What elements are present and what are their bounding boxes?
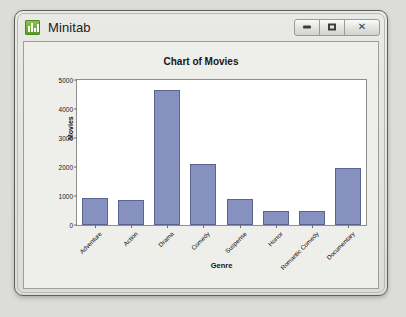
y-axis-tick-label: 0 [69,222,73,229]
x-axis-tick-mark [348,225,349,228]
minitab-window: Minitab ✕ Chart of Movies Movies 0100020… [14,10,388,296]
x-axis-title: Genre [76,261,367,270]
close-icon: ✕ [358,22,366,32]
window-titlebar[interactable]: Minitab ✕ [19,15,383,39]
x-axis-tick-mark [276,225,277,228]
window-controls: ✕ [294,19,380,36]
y-axis-tick-label: 5000 [59,77,73,84]
x-axis-tick-mark [240,225,241,228]
y-axis-tick-mark [74,80,77,81]
y-axis-tick-mark [74,196,77,197]
x-axis-tick-mark [95,225,96,228]
graph-client-area: Chart of Movies Movies 01000200030004000… [23,41,379,289]
y-axis-tick-mark [74,225,77,226]
minimize-button[interactable] [294,19,320,36]
x-axis-tick-mark [312,225,313,228]
close-button[interactable]: ✕ [344,19,380,36]
bar-comedy[interactable] [190,164,216,225]
y-axis-tick-mark [74,138,77,139]
bar-adventure[interactable] [82,198,108,225]
y-axis-tick-label: 3000 [59,135,73,142]
maximize-icon [328,24,336,31]
plot-area: Movies 010002000300040005000 AdventureAc… [76,79,367,226]
bar-action[interactable] [118,200,144,225]
bar-chart-icon [25,20,40,35]
maximize-button[interactable] [319,19,345,36]
bar-suspense[interactable] [227,199,253,225]
y-axis-tick-label: 2000 [59,164,73,171]
y-axis-tick-label: 1000 [59,193,73,200]
desktop-background: Minitab ✕ Chart of Movies Movies 0100020… [0,0,406,317]
bar-drama[interactable] [154,90,180,225]
y-axis-tick-mark [74,167,77,168]
window-title: Minitab [48,20,91,35]
y-axis-tick-label: 4000 [59,106,73,113]
chart-title: Chart of Movies [24,56,378,67]
x-axis-tick-mark [203,225,204,228]
minimize-icon [303,26,311,29]
x-axis-tick-mark [167,225,168,228]
y-axis-tick-mark [74,109,77,110]
x-axis-tick-mark [131,225,132,228]
